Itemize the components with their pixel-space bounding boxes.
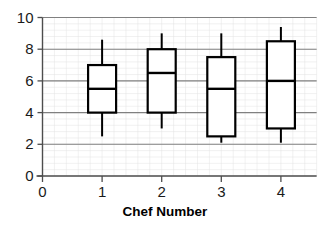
- box-plot-4: [267, 27, 295, 143]
- x-tick-label-1: 1: [98, 183, 106, 200]
- x-tick-label-0: 0: [38, 183, 46, 200]
- x-tick-label-4: 4: [277, 183, 285, 200]
- x-tick-label-2: 2: [158, 183, 166, 200]
- y-tick-label-0: 0: [25, 167, 33, 184]
- y-tick-label-4: 4: [25, 104, 33, 121]
- y-tick-label-2: 2: [25, 135, 33, 152]
- box-plot-chart: 0246810 01234 Chef Number: [0, 0, 331, 228]
- box-iqr: [207, 57, 235, 136]
- x-tick-label-3: 3: [217, 183, 225, 200]
- y-tick-label-10: 10: [17, 9, 34, 26]
- box-iqr: [267, 41, 295, 128]
- y-tick-label-6: 6: [25, 72, 33, 89]
- box-iqr: [148, 49, 176, 112]
- x-axis-title: Chef Number: [123, 204, 209, 219]
- plot-area: 0246810 01234 Chef Number: [0, 0, 331, 228]
- y-tick-label-8: 8: [25, 40, 33, 57]
